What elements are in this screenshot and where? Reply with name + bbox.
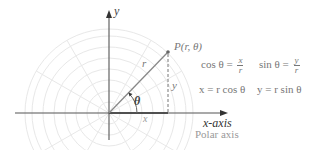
polar-axis-label: Polar axis xyxy=(195,129,239,140)
formula-cos: cos θ = x r xyxy=(201,56,243,75)
polar-coordinates-diagram xyxy=(0,0,317,150)
formula-cos-lhs: cos θ = xyxy=(201,58,233,70)
point-p xyxy=(166,50,170,54)
y-segment-label: y xyxy=(172,80,177,91)
formula-sin: sin θ = y r xyxy=(259,56,300,75)
theta-label: θ xyxy=(134,95,140,107)
formula-sin-den: r xyxy=(295,66,299,75)
formula-sin-fraction: y r xyxy=(294,56,300,75)
point-p-label: P(r, θ) xyxy=(174,41,202,52)
r-label: r xyxy=(142,58,146,69)
formula-x-eq: x = r cos θ xyxy=(199,83,245,95)
formula-y-eq: y = r sin θ xyxy=(257,83,301,95)
formula-cos-den: r xyxy=(239,66,243,75)
y-axis-label: y xyxy=(114,5,119,17)
x-segment-label: x xyxy=(143,114,147,124)
y-axis-arrow-icon xyxy=(106,10,112,18)
formula-cos-fraction: x r xyxy=(237,56,243,75)
formula-sin-lhs: sin θ = xyxy=(259,58,289,70)
